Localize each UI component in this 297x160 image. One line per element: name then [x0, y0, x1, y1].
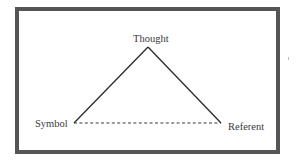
triangle-diagram: [0, 0, 297, 160]
node-label-referent: Referent: [228, 122, 264, 133]
scan-artifact: [288, 57, 289, 60]
edge-symbol-thought: [74, 47, 148, 123]
node-label-symbol: Symbol: [35, 119, 68, 130]
edge-thought-referent: [148, 47, 221, 123]
node-label-thought: Thought: [133, 34, 169, 45]
